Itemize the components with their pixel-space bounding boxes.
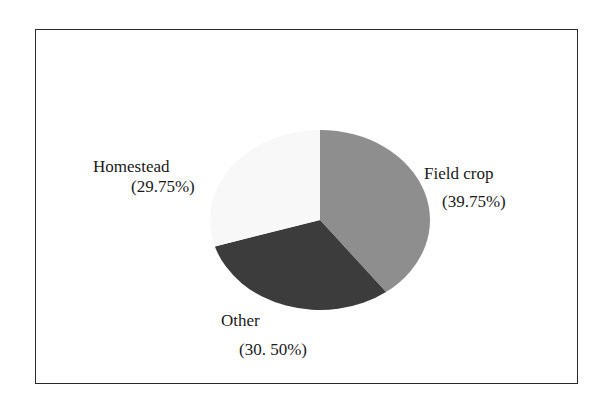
label-other-pct: (30. 50%)	[239, 340, 307, 360]
label-other-name: Other	[221, 311, 260, 331]
label-field-crop-name: Field crop	[424, 164, 493, 184]
label-homestead-name: Homestead	[93, 157, 169, 177]
label-homestead-pct: (29.75%)	[131, 177, 195, 197]
label-field-crop-pct: (39.75%)	[442, 192, 506, 212]
